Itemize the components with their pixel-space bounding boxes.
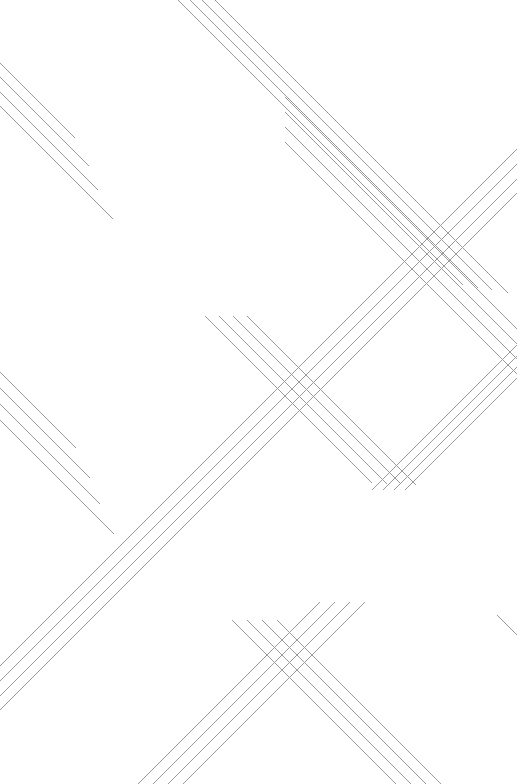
artwork-canvas (0, 0, 517, 784)
background-rect (0, 0, 517, 784)
diagonal-line-composition (0, 0, 517, 784)
